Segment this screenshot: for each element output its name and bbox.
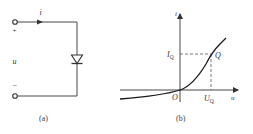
circuit-panel-a: i + u − (a): [13, 8, 83, 123]
plus-sign: +: [13, 27, 17, 35]
minus-sign: −: [13, 81, 18, 90]
origin-label: O: [172, 93, 178, 102]
voltage-label: u: [13, 57, 17, 66]
graph-panel-b: i u O IQ UQ Q (b): [120, 10, 238, 123]
caption-a: (a): [39, 114, 48, 123]
diode-icon: [72, 55, 83, 64]
iq-label: IQ: [166, 50, 174, 60]
bottom-terminal-icon: [13, 94, 18, 99]
current-label: i: [40, 8, 42, 17]
top-terminal-icon: [13, 20, 18, 25]
uq-label: UQ: [204, 94, 214, 104]
y-axis-label: i: [175, 10, 177, 18]
current-arrow-icon: [37, 20, 43, 25]
q-point-label: Q: [215, 51, 221, 60]
caption-b: (b): [176, 114, 186, 123]
diode-figure: i + u − (a) i u O IQ: [0, 0, 253, 134]
x-axis-label: u: [231, 94, 235, 102]
